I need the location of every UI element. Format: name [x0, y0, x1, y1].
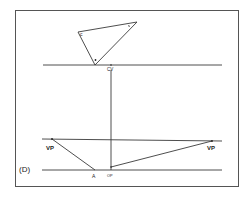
- vertex-marker-top-right: [128, 25, 130, 27]
- triangle-vertex-label: c: [80, 31, 83, 37]
- vp-right-point: [211, 140, 213, 142]
- vp-left-label: VP: [46, 145, 54, 151]
- figure-frame: [16, 11, 239, 187]
- perspective-diagram: c CV VP VP A OP (D): [0, 0, 247, 198]
- cv-label: CV: [107, 67, 113, 72]
- op-point: [110, 166, 112, 168]
- panel-label: (D): [19, 165, 30, 174]
- line-op-to-vp-right: [111, 141, 212, 167]
- vertex-marker-bottom: [95, 59, 97, 61]
- vp-right-label: VP: [207, 145, 215, 151]
- line-a-to-vp-left: [52, 139, 95, 170]
- vp-left-point: [51, 138, 53, 140]
- op-label: OP: [107, 174, 113, 178]
- point-a-label: A: [92, 173, 96, 179]
- vanishing-line: [42, 139, 222, 141]
- cv-point: [110, 64, 112, 66]
- triangle-shape: [78, 22, 137, 65]
